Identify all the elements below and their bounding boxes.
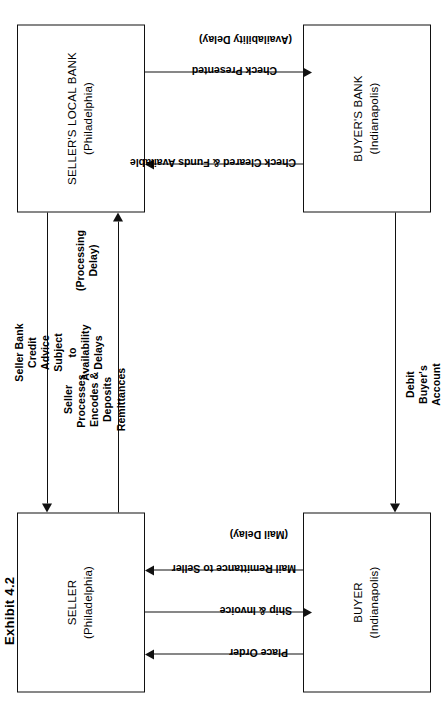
flow-debit-account-arrowhead [390,503,400,512]
flow-diagram-canvas: SELLER (Philadelphia) BUYER (Indianapoli… [0,0,448,717]
node-buyers-bank-name: BUYER'S BANK [351,75,367,161]
flow-mail-remittance-arrowhead [145,565,154,575]
node-buyer: BUYER (Indianapolis) [303,512,431,692]
flow-seller-processes-label: Seller Processes, Encodes & Deposits Rem… [62,309,128,489]
flow-mail-remittance-delay: (Mail Delay) [230,527,288,540]
node-sellers-local-bank: SELLER'S LOCAL BANK (Philadelphia) [17,24,145,212]
flow-check-presented-arrowhead [303,67,312,77]
flow-place-order-label: Place Order [229,645,288,658]
flow-mail-remittance-label: Mail Remittance to Seller [172,561,296,574]
node-buyer-city: (Indianapolis) [367,566,383,638]
flow-seller-processes-arrowhead [113,212,123,221]
flow-ship-invoice-label: Ship & Invoice [220,603,292,616]
node-seller-city: (Philadelphia) [81,565,97,638]
flow-credit-advice-arrowhead [42,503,52,512]
flow-debit-account-line [395,212,396,503]
node-buyers-bank: BUYER'S BANK (Indianapolis) [303,24,431,212]
flow-ship-invoice-arrowhead [303,607,312,617]
node-buyer-name: BUYER [351,582,367,623]
flow-place-order-arrowhead [145,649,154,659]
node-sellers-local-bank-name: SELLER'S LOCAL BANK [65,52,81,185]
flow-check-presented-delay: (Availability Delay) [199,32,292,45]
node-seller: SELLER (Philadelphia) [17,512,145,692]
flow-check-presented-label: Check Presented [192,63,277,76]
flow-debit-account-label: Debit Buyer's Account [404,329,443,439]
flow-check-cleared-label: Check Cleared & Funds Available [130,155,296,168]
node-buyers-bank-city: (Indianapolis) [367,82,383,154]
node-sellers-local-bank-city: (Philadelphia) [81,81,97,154]
diagram-page: Exhibit 4.2 SELLER (Philadelphia) BUYER … [0,0,448,717]
flow-seller-processes-delay: (Processing Delay) [74,215,100,305]
node-seller-name: SELLER [65,579,81,624]
